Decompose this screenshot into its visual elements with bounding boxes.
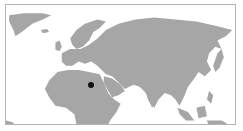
india-landmass <box>144 87 161 108</box>
japan-landmass <box>213 49 224 72</box>
greenland-landmass <box>9 13 51 36</box>
map-frame <box>5 4 236 125</box>
location-marker <box>88 82 94 88</box>
southeast-asia-islands <box>177 91 232 125</box>
britain-landmass <box>55 41 61 52</box>
south-america-landmass <box>6 120 15 125</box>
iceland-landmass <box>41 29 49 33</box>
world-map <box>6 5 236 125</box>
